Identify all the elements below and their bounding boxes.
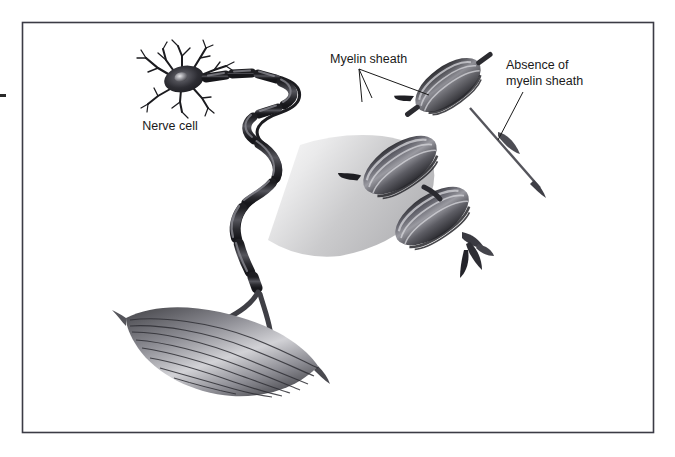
diagram-canvas: Nerve cell Myelin sheath Absence of myel… (0, 0, 675, 457)
label-absence-line-1: Absence of (506, 58, 569, 72)
label-nerve-cell: Nerve cell (142, 119, 198, 133)
figure-root: Nerve cell Myelin sheath Absence of myel… (0, 0, 675, 457)
left-margin-tick (0, 94, 6, 97)
label-myelin-sheath: Myelin sheath (330, 52, 407, 66)
label-absence-line-2: myelin sheath (506, 74, 583, 88)
